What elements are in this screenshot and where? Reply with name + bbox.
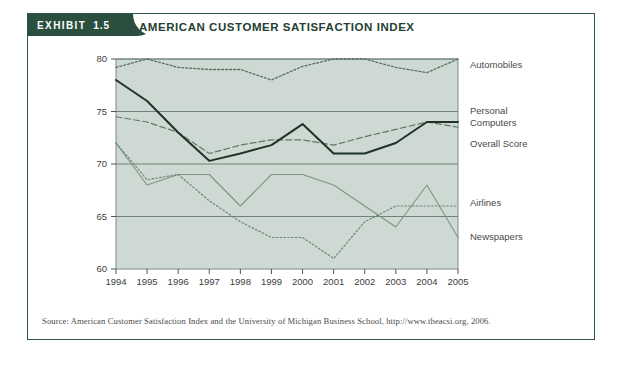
exhibit-frame	[27, 13, 595, 340]
page-title: AMERICAN CUSTOMER SATISFACTION INDEX	[139, 21, 415, 33]
source-note: Source: American Customer Satisfaction I…	[42, 316, 572, 326]
exhibit-tab-word: EXHIBIT	[37, 20, 86, 31]
exhibit-tab: EXHIBIT 1.5	[28, 14, 134, 36]
exhibit-tab-number: 1.5	[93, 20, 110, 31]
